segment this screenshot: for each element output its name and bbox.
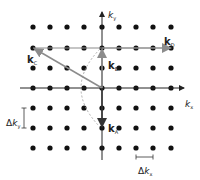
delta-kx-label: Δkx: [138, 161, 152, 177]
lattice-point: [30, 65, 35, 70]
vector-kC-arrow-icon: [35, 49, 102, 88]
lattice-point: [133, 125, 138, 130]
lattice-point: [81, 125, 86, 130]
lattice-point: [168, 105, 173, 110]
lattice-point: [30, 105, 35, 110]
lattice-point: [133, 145, 138, 150]
lattice-point: [168, 125, 173, 130]
lattice-point: [150, 65, 155, 70]
lattice-point: [47, 125, 52, 130]
lattice-point: [150, 145, 155, 150]
lattice-point: [47, 145, 52, 150]
lattice-point: [30, 125, 35, 130]
delta-kx-bracket-icon: [136, 155, 153, 160]
lattice-point: [116, 145, 121, 150]
ky-sub: y: [113, 15, 116, 21]
kD-sub: D: [171, 42, 175, 48]
vector-kB-label: kB: [108, 56, 118, 72]
lattice-point: [150, 125, 155, 130]
dkx-sub: x: [149, 171, 152, 177]
lattice-point: [168, 145, 173, 150]
kx-sub: x: [190, 104, 193, 110]
lattice-point: [47, 65, 52, 70]
lattice-point: [81, 24, 86, 29]
lattice-point: [81, 65, 86, 70]
lattice-point: [133, 105, 138, 110]
lattice-point: [47, 24, 52, 29]
lattice-point: [168, 24, 173, 29]
lattice-point: [47, 105, 52, 110]
lattice-point: [168, 65, 173, 70]
delta-ky-bracket-icon: [22, 108, 27, 128]
lattice-point: [64, 105, 69, 110]
vector-kC-label: kC: [27, 50, 37, 66]
lattice-point: [133, 65, 138, 70]
lattice-point: [30, 145, 35, 150]
kB-main: k: [108, 60, 115, 71]
lattice-point: [116, 105, 121, 110]
lattice-point: [150, 105, 155, 110]
lattice-point: [81, 145, 86, 150]
lattice-point: [116, 24, 121, 29]
kA-sub: A: [115, 129, 118, 135]
vector-kA-label: kA: [108, 119, 118, 135]
delta-ky-label: Δky: [6, 113, 20, 129]
lattice-point: [64, 145, 69, 150]
ky-axis-label: ky: [108, 5, 116, 21]
lattice-point: [30, 24, 35, 29]
lattice-point: [133, 24, 138, 29]
lattice-point: [64, 24, 69, 29]
kC-main: k: [27, 54, 34, 65]
lattice-point: [150, 24, 155, 29]
kx-axis-label: kx: [185, 94, 193, 110]
kA-main: k: [108, 123, 115, 134]
dky-sub: y: [17, 123, 20, 129]
kD-main: k: [164, 36, 171, 47]
kB-sub: B: [115, 66, 118, 72]
vector-kD-label: kD: [164, 32, 175, 48]
kC-sub: C: [34, 60, 38, 66]
lattice-point: [64, 125, 69, 130]
k-space-lattice-diagram: [0, 0, 200, 180]
